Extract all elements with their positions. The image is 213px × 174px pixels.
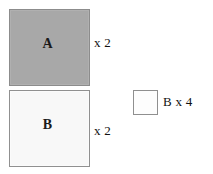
square-a-letter: A	[42, 37, 52, 51]
diagram-canvas: A x 2 B x 2 B x 4	[0, 0, 213, 174]
square-b: B	[9, 90, 90, 167]
square-a: A	[9, 9, 90, 86]
square-a-multiplier-label: x 2	[94, 36, 111, 49]
square-b-letter: B	[43, 118, 52, 132]
square-b-multiplier-label: x 2	[94, 124, 111, 137]
square-b-unit-caption: B x 4	[163, 95, 193, 108]
square-b-unit	[133, 90, 158, 115]
